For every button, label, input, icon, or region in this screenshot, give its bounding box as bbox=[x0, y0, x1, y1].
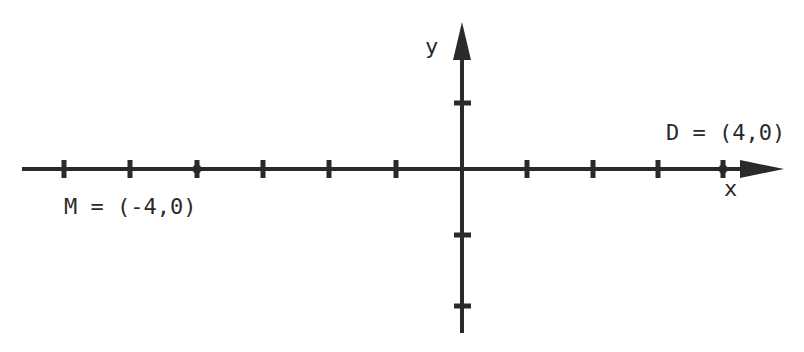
point-d bbox=[719, 165, 728, 174]
point-m bbox=[193, 165, 202, 174]
coordinate-plane: y x M = (-4,0) D = (4,0) bbox=[0, 0, 804, 352]
x-axis-label: x bbox=[724, 176, 737, 201]
point-d-label: D = (4,0) bbox=[666, 120, 785, 145]
point-m-label: M = (-4,0) bbox=[64, 194, 196, 219]
y-axis-arrow-icon bbox=[453, 22, 471, 60]
y-axis-label: y bbox=[425, 34, 438, 59]
x-axis-arrow-icon bbox=[740, 160, 784, 178]
